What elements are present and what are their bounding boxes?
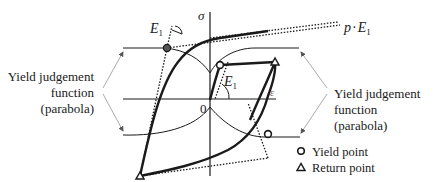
lower-parabola-left (123, 107, 210, 135)
left-annotation-line2: function (6, 85, 94, 101)
annotation-arrows (103, 52, 327, 133)
return-point-top-right (271, 58, 279, 65)
origin-label: 0 (200, 101, 207, 116)
right-annotation-line2: function (334, 102, 420, 118)
left-annotation-line3: (parabola) (6, 101, 94, 117)
triangle-icon (296, 161, 312, 176)
legend-item-return-point: Return point (296, 161, 375, 176)
yield-point-center (217, 62, 224, 69)
e1-top-label: E1 (149, 21, 163, 38)
legend-item-yield-point: Yield point (296, 145, 368, 160)
e1-center-label: E1 (223, 74, 237, 91)
legend-label: Yield point (312, 145, 368, 160)
hysteresis-diagram: σ ε 0 E1 E1 p·E1 Yield judgement functio… (0, 0, 435, 182)
left-annotation-line1: Yield judgement (6, 69, 94, 85)
p-e1-label: p·E1 (343, 20, 371, 37)
legend-label: Return point (312, 161, 375, 176)
yield-point-top-left (163, 44, 170, 51)
right-annotation-line3: (parabola) (334, 118, 420, 134)
right-annotation: Yield judgement function (parabola) (334, 86, 420, 134)
hysteresis-curves (140, 31, 275, 176)
upper-parabola-right (210, 48, 299, 73)
circle-icon (296, 145, 312, 160)
epsilon-label: ε (270, 87, 274, 98)
top-angle-arc (172, 26, 182, 34)
sigma-label: σ (198, 8, 205, 23)
right-annotation-line1: Yield judgement (334, 86, 420, 102)
left-annotation: Yield judgement function (parabola) (6, 69, 94, 117)
yield-point-bottom-right (265, 131, 272, 138)
return-point-bottom-left (136, 172, 144, 179)
return-points (136, 58, 279, 179)
hardening-line-top (167, 25, 340, 48)
